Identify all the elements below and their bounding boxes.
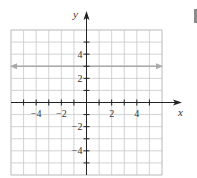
- y-tick-label: −4: [72, 145, 83, 156]
- scroll-indicator: [194, 9, 197, 23]
- x-tick-label: 2: [109, 108, 114, 119]
- y-tick-label: 2: [78, 73, 83, 84]
- x-axis-label: x: [177, 106, 183, 118]
- axes: [11, 11, 182, 175]
- x-tick-label: 4: [134, 108, 139, 119]
- y-axis-label: y: [72, 8, 78, 20]
- x-tick-label: −2: [56, 108, 67, 119]
- x-tick-label: −4: [31, 108, 42, 119]
- y-tick-label: 4: [78, 49, 83, 60]
- y-tick-label: −2: [72, 121, 83, 132]
- coordinate-plane: −4−22442−2−4 x y: [0, 0, 197, 178]
